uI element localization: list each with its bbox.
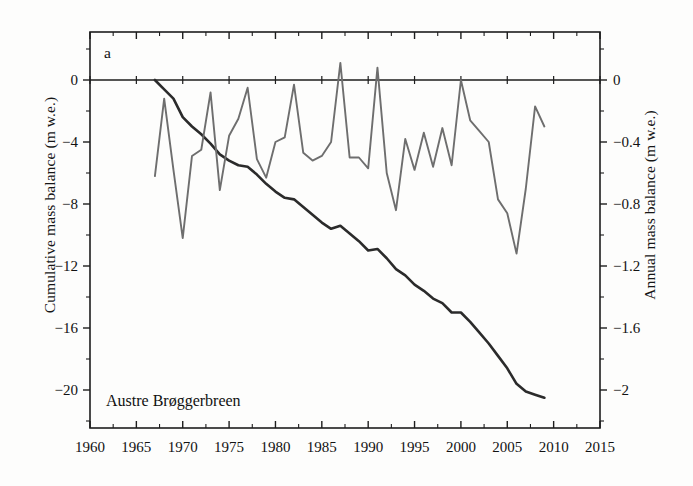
x-tick-4: 1980 bbox=[260, 439, 290, 456]
data-series bbox=[155, 63, 544, 398]
y-tick-right-1: −0.4 bbox=[613, 134, 673, 151]
panel-letter-label: a bbox=[104, 44, 111, 62]
y-tick-right-4: −1.6 bbox=[613, 320, 673, 337]
y-tick-left-4: −16 bbox=[18, 320, 78, 337]
x-tick-10: 2010 bbox=[539, 439, 569, 456]
x-tick-5: 1985 bbox=[307, 439, 337, 456]
y-tick-right-2: −0.8 bbox=[613, 196, 673, 213]
x-tick-0: 1960 bbox=[75, 439, 105, 456]
x-tick-11: 2015 bbox=[585, 439, 615, 456]
y-tick-right-3: −1.2 bbox=[613, 258, 673, 275]
x-tick-8: 2000 bbox=[446, 439, 476, 456]
y-tick-left-5: −20 bbox=[18, 382, 78, 399]
zero-line bbox=[90, 76, 600, 84]
y-tick-right-5: −2 bbox=[613, 382, 673, 399]
y-tick-left-1: −4 bbox=[18, 134, 78, 151]
figure-panel-a: Cumulative mass balance (m w.e.) Annual … bbox=[0, 0, 693, 486]
x-tick-6: 1990 bbox=[353, 439, 383, 456]
y-tick-left-0: 0 bbox=[18, 72, 78, 89]
x-tick-1: 1965 bbox=[121, 439, 151, 456]
glacier-name-label: Austre Brøggerbreen bbox=[106, 392, 241, 410]
y-tick-left-2: −8 bbox=[18, 196, 78, 213]
chart-canvas bbox=[0, 0, 693, 486]
y-tick-right-0: 0 bbox=[613, 72, 673, 89]
x-tick-3: 1975 bbox=[214, 439, 244, 456]
y-tick-left-3: −12 bbox=[18, 258, 78, 275]
x-tick-7: 1995 bbox=[400, 439, 430, 456]
x-tick-2: 1970 bbox=[168, 439, 198, 456]
x-tick-9: 2005 bbox=[492, 439, 522, 456]
